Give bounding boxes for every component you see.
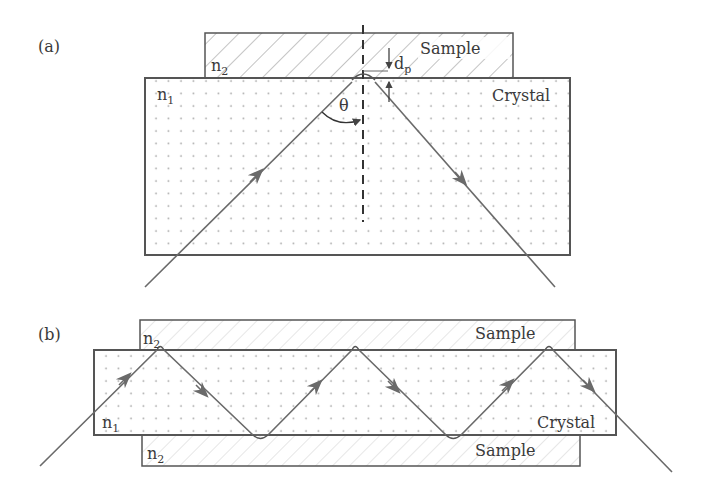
sample-a-label: Sample [420,39,481,58]
sample-b-top: Sample n2 [140,320,575,351]
atr-diagram: (a) Sample n2 Crystal n1 θ [0,0,705,502]
sample-b-bottom: Sample n2 [142,435,580,466]
panel-a: (a) Sample n2 Crystal n1 θ [38,25,570,287]
crystal-a: Crystal n1 [145,78,570,255]
sample-b-top-label: Sample [475,324,536,343]
sample-b-bottom-label: Sample [475,441,536,460]
panel-a-label: (a) [38,37,60,56]
theta-label: θ [339,96,349,115]
panel-b-label: (b) [38,325,61,344]
crystal-a-label: Crystal [492,86,550,105]
crystal-b-label: Crystal [537,413,595,432]
sample-a: Sample n2 [205,33,513,78]
panel-b: (b) Sample n2 Sample n2 Crystal n1 [38,320,672,472]
crystal-b: Crystal n1 [94,350,616,435]
